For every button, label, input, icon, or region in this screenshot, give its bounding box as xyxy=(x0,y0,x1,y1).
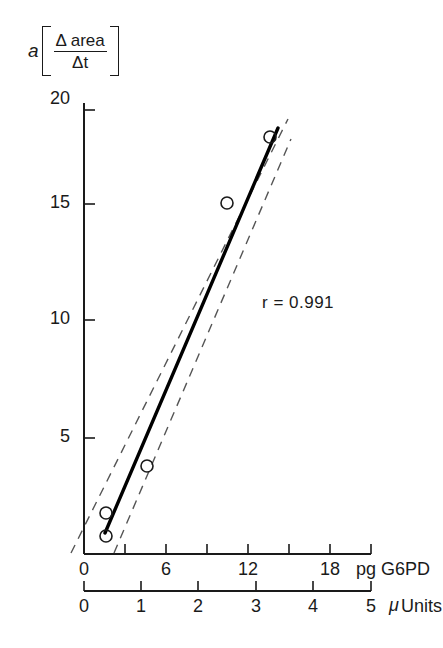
x-axis-bottom-ticks xyxy=(84,581,371,591)
x-axis-bottom-unit-word: Units xyxy=(401,596,442,617)
x-axis-bottom-unit-symbol: μ xyxy=(389,595,399,616)
figure-panel: a Δ area Δt xyxy=(0,0,443,648)
x-top-tick-label-0: 0 xyxy=(64,559,104,580)
x-bottom-tick-label-3: 3 xyxy=(236,596,276,617)
x-axis-top-unit-label: pg G6PD xyxy=(356,559,430,580)
y-tick-label-5: 5 xyxy=(36,426,70,447)
regression-line xyxy=(105,128,278,533)
data-point xyxy=(100,507,112,519)
confidence-band-upper xyxy=(114,139,291,553)
x-bottom-tick-label-4: 4 xyxy=(293,596,333,617)
y-axis-ticks xyxy=(84,110,95,438)
y-tick-label-20: 20 xyxy=(36,88,70,109)
x-bottom-tick-label-1: 1 xyxy=(121,596,161,617)
x-bottom-tick-label-0: 0 xyxy=(64,596,104,617)
x-bottom-tick-label-2: 2 xyxy=(178,596,218,617)
correlation-annotation: r = 0.991 xyxy=(262,293,334,313)
y-tick-label-15: 15 xyxy=(36,192,70,213)
x-top-tick-label-18: 18 xyxy=(310,559,350,580)
x-top-tick-label-6: 6 xyxy=(146,559,186,580)
y-tick-label-10: 10 xyxy=(36,308,70,329)
x-bottom-tick-label-5: 5 xyxy=(351,596,391,617)
x-top-tick-label-12: 12 xyxy=(228,559,268,580)
data-point xyxy=(141,460,153,472)
x-axis-top-ticks xyxy=(125,544,371,554)
data-point xyxy=(221,197,233,209)
